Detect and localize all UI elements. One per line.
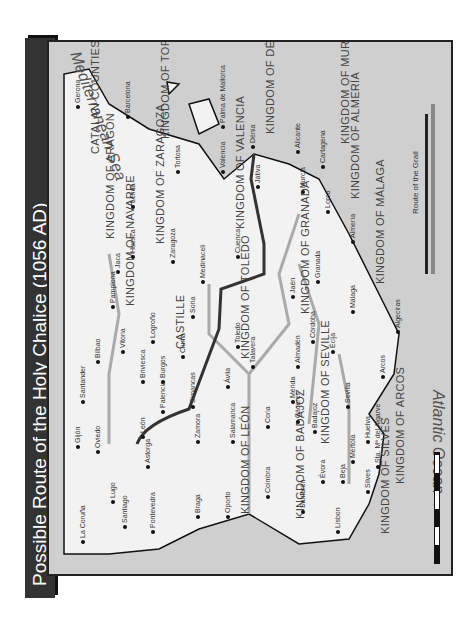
city-label: León	[139, 417, 146, 439]
city-label: Clunia	[179, 333, 186, 359]
city-label: Astorga	[144, 439, 151, 469]
city-label: Bilbao	[94, 339, 101, 364]
kingdom-label: CATALAN COUNTIES	[89, 40, 101, 154]
city-label: Pontevedra	[149, 492, 156, 534]
city-label: Cartagena	[319, 130, 326, 169]
city-label: Tortosa	[174, 145, 181, 174]
city-label: Soria	[189, 297, 196, 319]
city-label: Córdoba	[309, 311, 316, 344]
city-label: Talavera	[249, 337, 256, 369]
city-label: Sta. Mª del Algarve	[374, 404, 381, 469]
kingdom-label: KINGDOM OF MÁLAGA	[374, 159, 386, 284]
city-label: Oviedo	[94, 426, 101, 454]
city-label: Gijón	[74, 427, 81, 449]
city-label: Palencia	[159, 381, 166, 414]
kingdom-label: KINGDOM OF VALENCIA	[234, 96, 246, 229]
city-label: Mérida	[289, 377, 296, 404]
city-label: Santiago	[121, 495, 128, 529]
kingdom-label: KINGDOM OF ARAGÓN	[104, 113, 116, 239]
city-label: Santarén	[299, 480, 306, 514]
kingdom-label: KINGDOM OF GRANADA	[299, 180, 311, 314]
city-label: Zamora	[194, 414, 201, 444]
city-label: La Coruña	[79, 505, 86, 544]
city-label: Granada	[314, 251, 321, 284]
city-label: Huelva	[364, 416, 371, 444]
city-label: Gerona	[74, 80, 81, 109]
city-label: Dénia	[249, 125, 256, 149]
city-label: Coimbra	[264, 467, 271, 499]
city-label: Valencia	[219, 142, 226, 174]
city-label: Logroño	[149, 312, 156, 344]
city-label: Mertola	[349, 435, 356, 464]
city-label: Huesca	[129, 229, 136, 259]
city-label: Alicante	[294, 123, 301, 154]
city-label: Beja	[339, 464, 346, 484]
city-label: Écija	[329, 333, 336, 354]
city-label: Palma de Mallorca	[219, 65, 226, 129]
city-label: Lisbon	[334, 507, 341, 534]
city-label: Lorca	[324, 190, 331, 214]
kingdom-label: KINGDOM OF DÉNIA	[264, 40, 276, 134]
kingdom-label: KINGDOM OF ALMERÍA	[349, 72, 361, 199]
route-shadow-swatch	[431, 104, 435, 274]
city-label: Simancas	[189, 372, 196, 409]
legend: Route of the Grail	[411, 104, 441, 274]
city-label: Arcos	[379, 355, 386, 379]
city-label: Burgos	[159, 356, 166, 384]
route-line-swatch	[425, 114, 428, 274]
kingdom-label: KINGDOM OF TORTOSA	[159, 40, 171, 139]
scale-bar	[434, 452, 440, 564]
city-label: Murcia	[299, 167, 306, 194]
city-label: Vitoria	[119, 328, 126, 354]
city-label: Briviesca	[139, 350, 146, 384]
city-label: Coria	[264, 406, 271, 429]
city-label: Salamanca	[229, 403, 236, 444]
city-label: Jaén	[289, 278, 296, 299]
city-label: Braga	[194, 494, 201, 519]
city-label: Santander	[79, 366, 86, 404]
city-label: Barcelona	[124, 81, 131, 119]
city-label: Medinaceli	[199, 245, 206, 284]
city-label: Lérida	[129, 184, 136, 209]
city-label: Pamplona	[109, 271, 116, 309]
map-area: Atlantic Ocean Mediterranean Sea Route o…	[47, 40, 453, 576]
city-label: Sevilla	[344, 382, 351, 409]
city-label: Ávila	[224, 368, 231, 389]
kingdom-label: KINGDOM OF LEÓN	[239, 406, 251, 514]
city-label: Almería	[349, 214, 356, 244]
city-label: Játiva	[254, 165, 261, 189]
city-label: Jaca	[114, 253, 121, 274]
kingdom-label: KINGDOM OF ARCOS	[394, 367, 406, 484]
city-label: Zaragoza	[169, 228, 176, 264]
city-label: Cuenca	[234, 229, 241, 259]
city-label: Lugo	[109, 482, 116, 504]
city-label: Évora	[319, 460, 326, 484]
legend-route-label: Route of the Grail	[411, 151, 420, 214]
city-label: Toledo	[234, 322, 241, 349]
rotated-map-page: Possible Route of the Holy Chalice (1056…	[25, 38, 455, 598]
city-label: Almadén	[294, 335, 301, 369]
city-label: Silves	[364, 469, 371, 494]
city-label: Oporto	[224, 492, 231, 519]
city-label: Algeciras	[394, 299, 401, 334]
city-label: Badajoz	[311, 403, 318, 434]
city-label: Málaga	[349, 285, 356, 314]
